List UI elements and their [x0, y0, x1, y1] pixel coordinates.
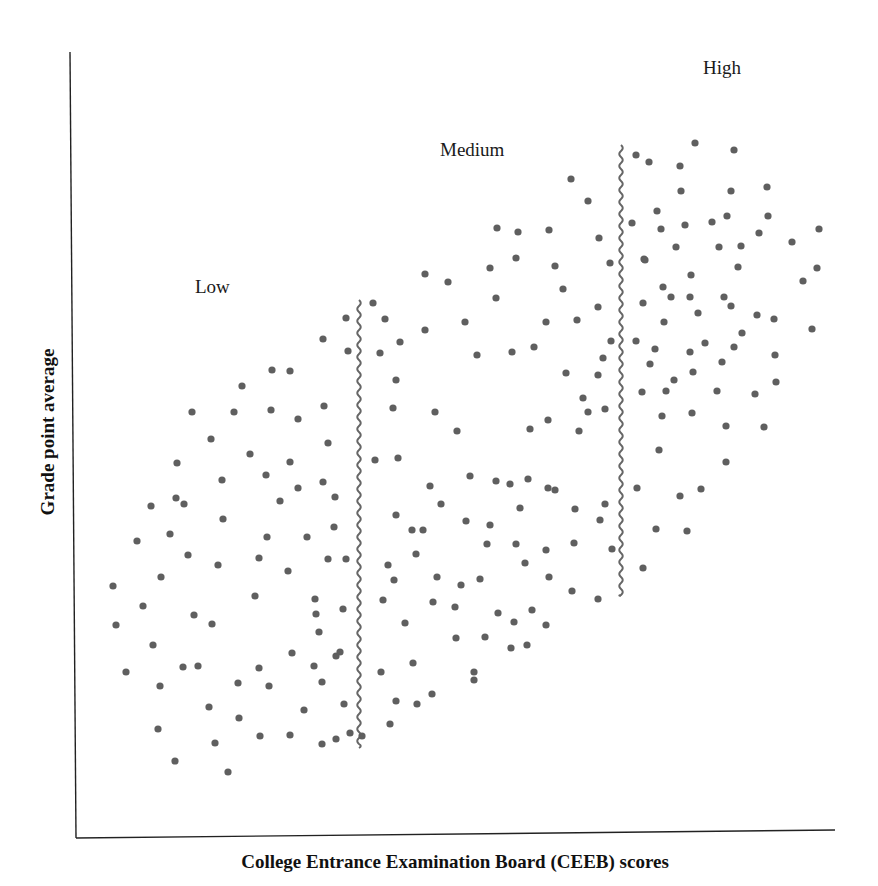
- data-point: [723, 212, 730, 219]
- data-point: [653, 207, 660, 214]
- data-point: [652, 525, 659, 532]
- data-point: [727, 187, 734, 194]
- data-point: [235, 714, 242, 721]
- data-point: [568, 587, 575, 594]
- data-point: [760, 423, 767, 430]
- data-point: [606, 259, 613, 266]
- data-point: [369, 299, 376, 306]
- data-point: [601, 405, 608, 412]
- series-high: [628, 139, 822, 571]
- data-point: [718, 358, 725, 365]
- data-point: [205, 703, 212, 710]
- data-point: [392, 697, 399, 704]
- data-point: [628, 219, 635, 226]
- data-point: [516, 504, 523, 511]
- data-point: [659, 283, 666, 290]
- data-point: [514, 228, 521, 235]
- data-point: [632, 151, 639, 158]
- data-point: [655, 446, 662, 453]
- data-point: [267, 406, 274, 413]
- data-point: [166, 530, 173, 537]
- data-point: [379, 596, 386, 603]
- data-point: [738, 329, 745, 336]
- data-point: [451, 603, 458, 610]
- data-point: [772, 378, 779, 385]
- data-point: [461, 318, 468, 325]
- data-point: [284, 567, 291, 574]
- data-point: [286, 731, 293, 738]
- data-point: [330, 523, 337, 530]
- data-point: [607, 337, 614, 344]
- data-point: [392, 511, 399, 518]
- data-point: [641, 256, 648, 263]
- data-point: [265, 682, 272, 689]
- data-point: [184, 551, 191, 558]
- data-point: [315, 628, 322, 635]
- data-point: [156, 682, 163, 689]
- data-point: [575, 427, 582, 434]
- data-point: [788, 238, 795, 245]
- data-point: [720, 293, 727, 300]
- low-medium-boundary-wavy-line: [357, 300, 361, 748]
- data-point: [457, 581, 464, 588]
- data-point: [486, 264, 493, 271]
- data-point: [332, 735, 339, 742]
- data-point: [214, 561, 221, 568]
- data-point: [473, 351, 480, 358]
- data-point: [492, 477, 499, 484]
- data-point: [763, 183, 770, 190]
- data-point: [452, 634, 459, 641]
- series-medium: [358, 175, 615, 739]
- data-point: [713, 387, 720, 394]
- data-point: [421, 326, 428, 333]
- data-point: [429, 598, 436, 605]
- data-point: [683, 527, 690, 534]
- data-point: [288, 649, 295, 656]
- data-point: [256, 732, 263, 739]
- data-point: [340, 700, 347, 707]
- scatter-chart: Low Medium High College Entrance Examina…: [0, 0, 878, 886]
- axes: [70, 52, 835, 838]
- data-point: [753, 311, 760, 318]
- data-point: [681, 221, 688, 228]
- data-point: [342, 555, 349, 562]
- data-point: [599, 354, 606, 361]
- data-point: [658, 412, 665, 419]
- data-point: [251, 592, 258, 599]
- data-point: [453, 427, 460, 434]
- data-point: [730, 146, 737, 153]
- data-point: [657, 225, 664, 232]
- data-point: [149, 641, 156, 648]
- data-point: [381, 315, 388, 322]
- data-point: [389, 404, 396, 411]
- data-point: [507, 644, 514, 651]
- data-point: [286, 367, 293, 374]
- data-point: [573, 316, 580, 323]
- data-point: [542, 318, 549, 325]
- data-point: [324, 439, 331, 446]
- data-point: [263, 533, 270, 540]
- data-point: [339, 605, 346, 612]
- data-point: [815, 225, 822, 232]
- data-point: [595, 234, 602, 241]
- data-point: [384, 561, 391, 568]
- data-point: [662, 387, 669, 394]
- data-point: [294, 415, 301, 422]
- y-axis-line: [70, 52, 76, 838]
- data-point: [676, 162, 683, 169]
- data-point: [218, 476, 225, 483]
- data-point: [544, 484, 551, 491]
- data-point: [512, 254, 519, 261]
- data-point: [207, 435, 214, 442]
- data-point: [608, 545, 615, 552]
- data-point: [154, 725, 161, 732]
- data-point: [737, 242, 744, 249]
- data-point: [342, 314, 349, 321]
- data-point: [173, 459, 180, 466]
- data-point: [594, 303, 601, 310]
- data-point: [551, 486, 558, 493]
- data-point: [722, 458, 729, 465]
- data-point: [311, 595, 318, 602]
- data-point: [701, 339, 708, 346]
- data-point: [594, 371, 601, 378]
